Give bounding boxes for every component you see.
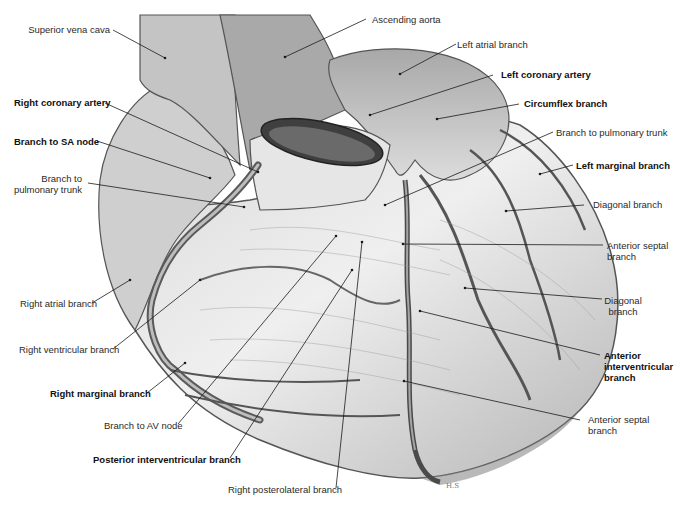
label-line-1: Anterior <box>604 350 673 361</box>
label-left-marginal-branch: Left marginal branch <box>576 160 670 171</box>
label-superior-vena-cava: Superior vena cava <box>6 24 110 35</box>
label-line-1: Anterior septal <box>607 240 668 251</box>
label-line-1: Diagonal <box>604 295 642 306</box>
label-left-atrial-branch: Left atrial branch <box>457 39 528 50</box>
label-line-2: interventricular <box>604 361 673 372</box>
label-branch-to-pulmonary-trunk-left: Branch to pulmonary trunk <box>556 127 667 138</box>
label-line-3: branch <box>604 372 673 383</box>
label-right-atrial-branch: Right atrial branch <box>20 298 97 309</box>
label-branch-to-av-node: Branch to AV node <box>104 420 183 431</box>
label-ascending-aorta: Ascending aorta <box>372 14 441 25</box>
label-diagonal-branch-upper: Diagonal branch <box>593 199 662 210</box>
label-right-posterolateral-branch: Right posterolateral branch <box>228 484 342 495</box>
label-anterior-septal-branch-upper: Anterior septal branch <box>607 240 668 262</box>
label-line-1: Branch to <box>10 173 82 184</box>
label-line-2: branch <box>607 251 668 262</box>
artist-signature: H.S <box>446 482 459 490</box>
heart-coronary-diagram: Superior vena cava Right coronary artery… <box>0 0 679 505</box>
label-circumflex-branch: Circumflex branch <box>524 98 607 109</box>
label-line-2: branch <box>588 425 649 436</box>
label-diagonal-branch-lower: Diagonal branch <box>604 295 642 317</box>
label-line-1: Anterior septal <box>588 414 649 425</box>
label-branch-to-pulmonary-trunk-right: Branch to pulmonary trunk <box>10 173 82 195</box>
label-right-coronary-artery: Right coronary artery <box>14 97 111 108</box>
label-line-2: branch <box>604 306 642 317</box>
label-posterior-interventricular-branch: Posterior interventricular branch <box>93 454 241 465</box>
label-line-2: pulmonary trunk <box>10 184 82 195</box>
label-right-ventricular-branch: Right ventricular branch <box>19 344 119 355</box>
label-left-coronary-artery: Left coronary artery <box>501 69 591 80</box>
label-right-marginal-branch: Right marginal branch <box>50 388 151 399</box>
label-branch-to-sa-node: Branch to SA node <box>14 136 99 147</box>
label-anterior-septal-branch-lower: Anterior septal branch <box>588 414 649 436</box>
label-anterior-interventricular-branch: Anterior interventricular branch <box>604 350 673 383</box>
